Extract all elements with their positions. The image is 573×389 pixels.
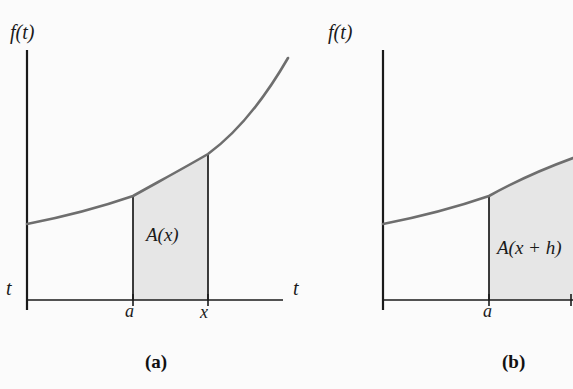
panel-b: f(t) t a A(x + h) (b) <box>290 0 573 389</box>
tick-label-a-a: a <box>125 302 134 320</box>
panel-caption-a: (a) <box>145 352 167 371</box>
x-axis-label-b: t <box>6 278 12 298</box>
panel-caption-b: (b) <box>502 352 525 371</box>
panel-b-graphic <box>290 0 573 389</box>
area-label-b: A(x + h) <box>497 238 562 257</box>
panel-a: f(t) t a x A(x) (a) <box>0 0 300 389</box>
y-axis-label-a: f(t) <box>10 22 34 42</box>
shaded-area-b <box>489 158 573 300</box>
y-axis-label-b: f(t) <box>328 22 352 42</box>
tick-label-x-a: x <box>200 303 208 321</box>
area-label-a: A(x) <box>146 225 179 244</box>
tick-label-a-b: a <box>483 302 492 320</box>
figure-root: f(t) t a x A(x) (a) f(t) t a <box>0 0 573 389</box>
panel-a-graphic <box>0 0 300 389</box>
